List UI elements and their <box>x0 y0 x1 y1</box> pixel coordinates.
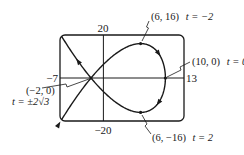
coord-right: (10, 0) <box>192 56 220 68</box>
arrow-icon <box>55 120 62 128</box>
label-top-point: (6, 16) t = −2 <box>151 11 214 23</box>
parametric-plot: 20 −20 −7 13 (6, 16) t = −2 (10, 0) t = … <box>0 0 244 155</box>
leader-top <box>142 21 149 41</box>
label-xmax: 13 <box>186 72 198 84</box>
direction-arrows <box>55 50 163 129</box>
t-right: t = 0 <box>227 56 244 67</box>
coord-bottom: (6, −16) <box>152 132 186 144</box>
point-bottom <box>139 111 142 114</box>
coord-top: (6, 16) <box>151 11 179 23</box>
label-ymin: −20 <box>94 124 112 136</box>
t-bottom: t = 2 <box>193 132 214 143</box>
t-top: t = −2 <box>186 11 214 22</box>
label-xmin: −7 <box>46 72 58 84</box>
label-crossing-t: t = ±2√3 <box>12 96 49 107</box>
point-right <box>164 76 167 79</box>
point-crossing <box>89 76 92 79</box>
label-right-point: (10, 0) t = 0 <box>192 56 244 68</box>
leader-bottom <box>142 115 151 134</box>
label-bottom-point: (6, −16) t = 2 <box>152 132 214 144</box>
label-ymax: 20 <box>98 22 110 34</box>
point-top <box>139 42 142 45</box>
